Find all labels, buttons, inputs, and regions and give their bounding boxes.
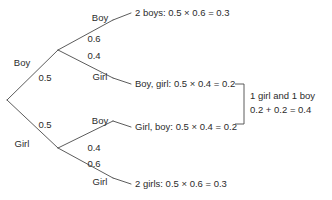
prob-label-boy-first: 0.5 [38,72,51,83]
probability-tree-diagram: Boy Girl 0.5 0.5 Boy Girl Boy Girl 0.6 0… [0,0,332,200]
branch-boy-to-boy [58,20,113,50]
summary-line-2: 0.2 + 0.2 = 0.4 [250,104,311,115]
prob-label-boy-girl: 0.4 [87,50,100,61]
summary-line-1: 1 girl and 1 boy [250,90,315,101]
result-text-boy-boy: 2 boys: 0.5 × 0.6 = 0.3 [135,7,230,18]
node-label-boy-first: Boy [14,57,31,68]
prob-label-girl-boy: 0.4 [87,142,100,153]
branch-girl-to-girl [58,148,113,178]
result-text-girl-girl: 2 girls: 0.5 × 0.6 = 0.3 [135,178,227,189]
connector-girl-girl-result [113,178,131,184]
node-label-boy-girl: Girl [93,71,108,82]
node-label-girl-girl: Girl [93,176,108,187]
node-label-boy-boy: Boy [92,12,109,23]
connector-boy-boy-result [113,13,131,20]
node-label-girl-first: Girl [15,138,30,149]
grouping-bracket [235,84,244,124]
result-text-boy-girl: Boy, girl: 0.5 × 0.4 = 0.2 [135,78,235,89]
node-label-girl-boy: Boy [92,115,109,126]
tree-diagram-canvas: Boy Girl 0.5 0.5 Boy Girl Boy Girl 0.6 0… [0,0,332,200]
prob-label-girl-first: 0.5 [38,119,51,130]
connector-boy-girl-result [113,78,131,84]
prob-label-boy-boy: 0.6 [87,33,100,44]
result-text-girl-boy: Girl, boy: 0.5 × 0.4 = 0.2 [135,121,237,132]
connector-girl-boy-result [113,121,131,127]
prob-label-girl-girl: 0.6 [87,158,100,169]
